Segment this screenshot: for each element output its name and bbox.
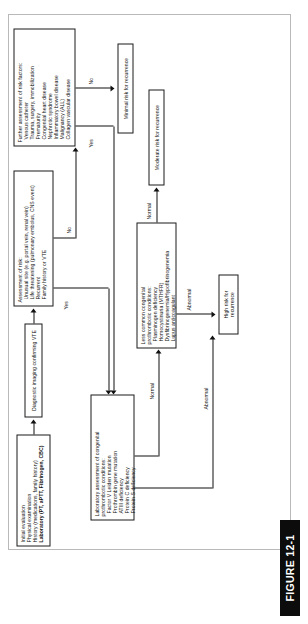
arrow-initial-to-imaging	[30, 419, 36, 423]
further-assessment-item-4: Nephrotic syndrome	[46, 32, 52, 142]
connector-further-yes-horizontal	[113, 126, 114, 390]
minimal-risk-label: Minimal risk for recurrence	[122, 57, 128, 118]
diagnostic-imaging-label: Diagnostic imaging confirming VTE	[30, 330, 36, 411]
connector-assessment-no-horizontal	[75, 150, 76, 238]
connector-assessment-yes-horizontal	[108, 288, 109, 390]
arrow-assessment-no	[72, 147, 78, 151]
edge-label-further-no: No	[66, 225, 72, 234]
assessment-of-risk-item-2: Recurrent	[34, 174, 40, 302]
lab-assessment-title2: prothrombotic conditions:	[99, 398, 105, 516]
initial-evaluation-line-3: Laboratory (PT, aPTT, Fibrinogen, CBC)	[37, 438, 43, 542]
figure-caption-text: FIGURE 12-1	[284, 534, 296, 601]
node-high-risk: High risk for recurrence	[218, 274, 238, 334]
node-diagnostic-imaging: Diagnostic imaging confirming VTE	[24, 323, 42, 417]
edge-label-lab-normal: Normal	[149, 382, 155, 400]
edge-label-risk-yes: Yes	[63, 300, 69, 310]
connector-lab-normal-horizontal	[158, 352, 159, 456]
high-risk-label-line2: recurrence	[228, 292, 234, 317]
further-assessment-item-2: Prematurity	[34, 32, 40, 142]
arrow-imaging-to-assessment	[30, 308, 36, 312]
node-assessment-of-risk: Assessment of risk: Unusual site (e.g. p…	[13, 170, 53, 306]
edge-label-risk-yes-2: Yes	[88, 138, 94, 148]
high-risk-label: High risk for recurrence	[222, 290, 235, 318]
figure-caption-band: FIGURE 12-1	[280, 520, 300, 616]
further-assessment-item-1: Trauma, surgery, immobilization	[28, 32, 34, 142]
arrow-further-no	[110, 85, 114, 91]
edge-label-minimal-no: No	[88, 76, 94, 85]
arrow-less-normal	[153, 187, 159, 191]
connector-assessment-yes-vertical	[53, 287, 108, 288]
further-assessment-title: Further assessment of risk factors:	[16, 32, 22, 142]
less-common-item-1: Homocystinuria (MTHFR)	[157, 226, 163, 344]
node-further-assessment: Further assessment of risk factors: Veno…	[13, 28, 75, 146]
connector-further-no-vertical	[75, 87, 111, 88]
node-lab-assessment: Laboratory assessment of congenital prot…	[90, 394, 134, 520]
moderate-risk-label: Moderate risk for recurrence	[153, 104, 159, 169]
high-risk-label-line1: High risk for	[222, 290, 228, 318]
further-assessment-item-7: Collagen vascular disease	[64, 32, 70, 142]
lab-assessment-item-0: Factor V Leiden mutation	[105, 398, 111, 516]
connector-lab-abnormal-horizontal	[212, 338, 213, 488]
assessment-of-risk-item-3: Family history or VTE	[40, 174, 46, 302]
arrow-lab-abnormal	[209, 335, 215, 339]
node-moderate-risk: Moderate risk for recurrence	[148, 89, 164, 185]
less-common-title2: prothrombotic conditions:	[145, 226, 151, 344]
arrow-further-yes	[110, 390, 116, 394]
connector-less-abnormal-vertical	[176, 313, 212, 314]
assessment-of-risk-item-1: Life threatening (pulmonary embolus, CNS…	[28, 174, 34, 302]
connector-initial-to-imaging	[33, 422, 34, 434]
flowchart-canvas: Initial evaluation Physical examination …	[8, 14, 291, 550]
less-common-item-0: Plasminogen deficiency	[151, 226, 157, 344]
initial-evaluation-line-1: Physical examination	[25, 438, 31, 542]
further-assessment-item-5: Inflammatory bowel disease	[52, 32, 58, 142]
node-less-common: Less common congenital prothrombotic con…	[136, 222, 176, 348]
lab-assessment-item-2: ATIII deficiency	[117, 398, 123, 516]
less-common-item-3: Lupus anticoagulant	[169, 226, 175, 344]
further-assessment-item-0: Venous catheter	[22, 32, 28, 142]
edge-label-less-abnormal: Abnormal	[186, 287, 192, 311]
connector-imaging-to-assessment	[33, 311, 34, 323]
connector-assessment-no-vertical	[53, 237, 75, 238]
lab-assessment-item-3: Protein C deficiency	[123, 398, 129, 516]
assessment-of-risk-title: Assessment of risk:	[16, 174, 22, 302]
assessment-of-risk-item-0: Unusual site (e.g. portal vein, renal ve…	[22, 174, 28, 302]
lab-assessment-item-1: Prothrombin gene mutation	[111, 398, 117, 516]
edge-label-lab-abnormal: Abnormal	[203, 386, 209, 410]
node-minimal-risk: Minimal risk for recurrence	[117, 43, 133, 133]
further-assessment-item-6: Malignancy (ALL)	[58, 32, 64, 142]
lab-assessment-item-4: Protein S deficiency	[129, 398, 135, 516]
less-common-title: Less common congenital	[139, 226, 145, 344]
further-assessment-item-3: Congenital heart disease	[40, 32, 46, 142]
figure-canvas-wrapper: Initial evaluation Physical examination …	[8, 14, 291, 550]
connector-lab-abnormal-vertical	[134, 487, 212, 488]
initial-evaluation-line-2: History (medications, family history)	[31, 438, 37, 542]
lab-assessment-title: Laboratory assessment of congenital	[93, 398, 99, 516]
connector-lab-normal-vertical	[134, 455, 158, 456]
edge-label-less-normal: Normal	[146, 202, 152, 220]
initial-evaluation-line-0: Initial evaluation	[19, 438, 25, 542]
connector-further-yes-vertical	[75, 125, 113, 126]
node-initial-evaluation: Initial evaluation Physical examination …	[16, 434, 50, 546]
connector-less-normal	[156, 190, 157, 222]
arrow-lab-normal	[155, 349, 161, 353]
less-common-item-2: Dysfibrinogenemia/Hypofibrinogenemia	[163, 226, 169, 344]
arrow-less-abnormal	[211, 311, 215, 317]
